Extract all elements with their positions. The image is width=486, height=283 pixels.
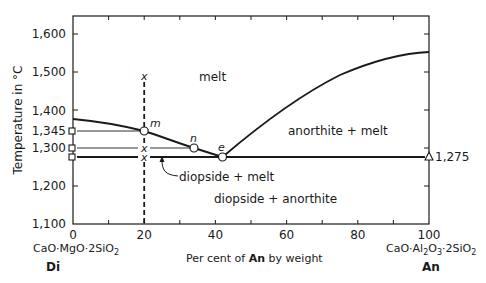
point-m <box>140 127 148 135</box>
square-1345 <box>69 128 75 134</box>
xtick-40: 40 <box>208 228 223 242</box>
label-n: n <box>190 132 197 145</box>
triangle-1275 <box>425 152 433 160</box>
xtick-20: 20 <box>137 228 152 242</box>
field-diopside-anorthite: diopside + anorthite <box>214 192 337 206</box>
y-axis-label: Temperature in °C <box>11 66 25 176</box>
xtick-0: 0 <box>69 228 77 242</box>
square-1300 <box>69 145 75 151</box>
xtick-100: 100 <box>418 228 441 242</box>
x-marker-top: x <box>140 70 148 83</box>
square-1275 <box>69 154 75 160</box>
ytick-1300: 1,300 <box>32 141 66 155</box>
field-anorthite-melt: anorthite + melt <box>288 124 388 138</box>
ytick-1100: 1,100 <box>32 217 66 231</box>
an-formula: CaO·Al2O3·2SiO2 <box>386 242 476 257</box>
right-label-1275: 1,275 <box>435 150 469 164</box>
an-abbr: An <box>422 260 440 274</box>
ytick-1600: 1,600 <box>32 27 66 41</box>
x-marker-1275: x <box>140 151 148 164</box>
phase-diagram: x x x m n e melt anorthite + melt diopsi… <box>0 0 486 283</box>
anorthite-liquidus <box>223 52 430 157</box>
pointer-arrow <box>162 160 178 176</box>
point-e <box>219 153 227 161</box>
xtick-60: 60 <box>279 228 294 242</box>
label-m: m <box>150 117 161 130</box>
point-n <box>190 144 198 152</box>
di-formula: CaO·MgO·2SiO2 <box>33 242 119 257</box>
ytick-1345: 1,345 <box>32 124 66 138</box>
x-axis-label: Per cent of An by weight <box>186 252 323 265</box>
ytick-1200: 1,200 <box>32 179 66 193</box>
xtick-80: 80 <box>350 228 365 242</box>
right-ticks <box>424 34 429 186</box>
bottom-ticks <box>109 220 394 224</box>
di-abbr: Di <box>46 260 60 274</box>
field-diopside-melt: diopside + melt <box>179 170 275 184</box>
label-e: e <box>218 141 225 154</box>
ytick-1400: 1,400 <box>32 104 66 118</box>
ytick-1500: 1,500 <box>32 65 66 79</box>
left-ticks <box>73 34 78 186</box>
field-melt: melt <box>199 70 226 84</box>
